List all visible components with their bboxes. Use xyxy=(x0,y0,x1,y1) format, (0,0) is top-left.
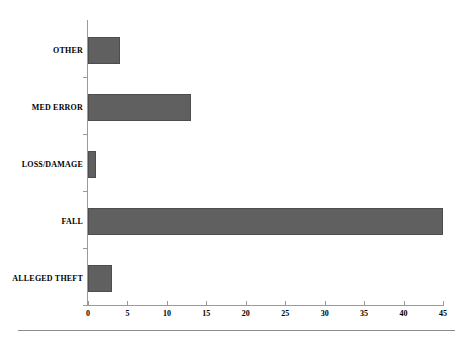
x-axis-tick-label: 15 xyxy=(193,309,219,319)
category-label-med-error: MED ERROR xyxy=(0,103,83,113)
x-axis-tick-label: 10 xyxy=(154,309,180,319)
x-axis-tick xyxy=(443,301,444,306)
bar-med-error xyxy=(88,94,191,121)
x-axis-tick xyxy=(325,301,326,306)
y-axis-tick xyxy=(83,134,88,135)
bar-fall xyxy=(88,208,443,235)
x-axis-tick-label: 30 xyxy=(312,309,338,319)
x-axis-tick xyxy=(127,301,128,306)
category-label-alleged-theft: ALLEGED THEFT xyxy=(0,274,83,284)
x-axis-tick xyxy=(364,301,365,306)
x-axis-tick-label: 45 xyxy=(430,309,456,319)
x-axis-tick-label: 0 xyxy=(75,309,101,319)
x-axis-tick xyxy=(88,301,89,306)
x-axis-tick-label: 5 xyxy=(114,309,140,319)
y-axis-tick xyxy=(83,77,88,78)
bar-chart: OTHER MED ERROR LOSS/DAMAGE FALL ALLEGED… xyxy=(0,0,466,343)
x-axis-line xyxy=(88,305,444,306)
category-label-loss-damage: LOSS/DAMAGE xyxy=(0,160,83,170)
y-axis-tick xyxy=(83,191,88,192)
bar-loss-damage xyxy=(88,151,96,178)
x-axis-tick xyxy=(167,301,168,306)
category-label-fall: FALL xyxy=(0,217,83,227)
bar-alleged-theft xyxy=(88,265,112,292)
bar-other xyxy=(88,37,120,64)
x-axis-tick-label: 20 xyxy=(233,309,259,319)
category-label-other: OTHER xyxy=(0,46,83,56)
x-axis-tick xyxy=(246,301,247,306)
x-axis-tick-label: 25 xyxy=(272,309,298,319)
y-axis-tick xyxy=(83,248,88,249)
x-axis-tick xyxy=(404,301,405,306)
x-axis-tick xyxy=(285,301,286,306)
x-axis-tick xyxy=(206,301,207,306)
x-axis-tick-label: 35 xyxy=(351,309,377,319)
footer-rule xyxy=(18,330,455,331)
x-axis-tick-label: 40 xyxy=(391,309,417,319)
